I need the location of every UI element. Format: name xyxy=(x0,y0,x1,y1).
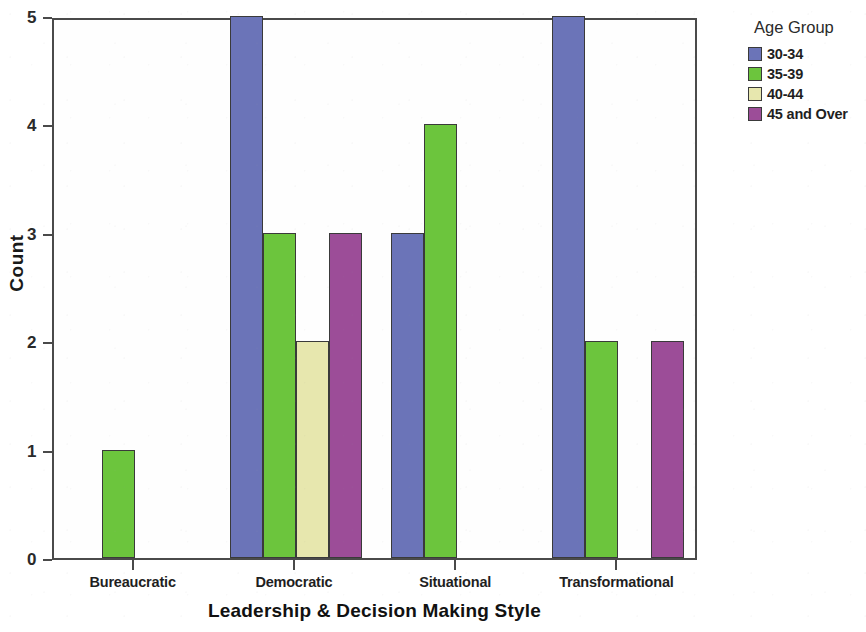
y-axis-tick-label: 0 xyxy=(27,550,36,570)
x-axis-tick-mark xyxy=(615,560,617,570)
bar xyxy=(329,233,362,558)
y-axis-tick-mark xyxy=(43,342,52,344)
x-axis-tick-mark xyxy=(132,560,134,570)
x-axis-tick-label: Situational xyxy=(419,574,491,590)
x-axis-tick-mark xyxy=(293,560,295,570)
bar xyxy=(651,341,684,558)
x-axis-tick-label: Bureaucratic xyxy=(90,574,176,590)
bar xyxy=(552,16,585,558)
x-axis-tick-label: Transformational xyxy=(559,574,673,590)
legend-color-swatch xyxy=(748,87,762,101)
legend-entry: 30-34 xyxy=(748,45,866,62)
y-axis-tick-label: 5 xyxy=(27,8,36,28)
bar xyxy=(296,341,329,558)
legend-color-swatch xyxy=(748,47,762,61)
y-axis-tick-mark xyxy=(43,234,52,236)
x-axis-tick-mark xyxy=(454,560,456,570)
legend-entry-label: 30-34 xyxy=(767,46,803,62)
x-axis: BureaucraticDemocraticSituationalTransfo… xyxy=(52,560,697,600)
y-axis-tick-label: 3 xyxy=(27,225,36,245)
plot-area xyxy=(52,18,697,560)
bar xyxy=(585,341,618,558)
legend-color-swatch xyxy=(748,67,762,81)
y-axis-tick-mark xyxy=(43,125,52,127)
legend-entry-label: 45 and Over xyxy=(767,106,848,122)
y-axis-tick-mark xyxy=(43,17,52,19)
bar xyxy=(391,233,424,558)
bar xyxy=(230,16,263,558)
legend-entries: 30-3435-3940-4445 and Over xyxy=(748,45,866,122)
legend-color-swatch xyxy=(748,107,762,121)
legend-entry: 35-39 xyxy=(748,65,866,82)
y-axis-title: Count xyxy=(6,208,28,318)
y-axis-tick-label: 2 xyxy=(27,333,36,353)
y-axis-tick-mark xyxy=(43,559,52,561)
legend-entry-label: 40-44 xyxy=(767,86,803,102)
x-axis-title: Leadership & Decision Making Style xyxy=(52,600,697,622)
y-axis-tick-label: 4 xyxy=(27,116,36,136)
legend-title: Age Group xyxy=(754,18,866,37)
x-axis-tick-label: Democratic xyxy=(255,574,332,590)
legend-entry-label: 35-39 xyxy=(767,66,803,82)
legend-entry: 45 and Over xyxy=(748,105,866,122)
bar xyxy=(102,450,135,558)
y-axis-tick-mark xyxy=(43,451,52,453)
bar xyxy=(263,233,296,558)
legend-entry: 40-44 xyxy=(748,85,866,102)
bars-layer xyxy=(54,20,695,558)
legend: Age Group 30-3435-3940-4445 and Over xyxy=(748,18,866,125)
bar xyxy=(424,124,457,558)
y-axis-tick-label: 1 xyxy=(27,442,36,462)
bar-chart-figure: 012345 Count BureaucraticDemocraticSitua… xyxy=(0,0,866,632)
